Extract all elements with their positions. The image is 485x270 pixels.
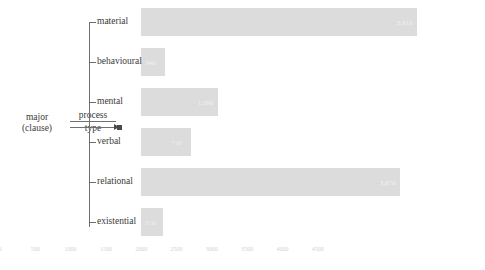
network-term-relational: relational: [97, 176, 133, 187]
bar-value-verbal: 710: [171, 139, 181, 146]
system-name-label: process type: [70, 110, 116, 133]
network-term-tick: [89, 22, 96, 23]
figure-canvas: major (clause) process type 3,9103401,09…: [0, 0, 485, 270]
x-axis: 050010001500200025003000350040004500: [0, 246, 344, 260]
bar-value-behavioural: 340: [145, 59, 155, 66]
x-tick-4000: 4000: [276, 246, 288, 252]
network-term-mental: mental: [97, 96, 123, 107]
network-term-tick: [89, 142, 96, 143]
network-term-behavioural: behavioural: [97, 56, 142, 67]
x-tick-3500: 3500: [241, 246, 253, 252]
x-tick-2000: 2000: [135, 246, 147, 252]
bar-row-existential[interactable]: 310: [141, 208, 485, 236]
bar-row-verbal[interactable]: 710: [141, 128, 485, 156]
bar-value-mental: 1,090: [198, 99, 214, 106]
x-tick-2500: 2500: [171, 246, 183, 252]
x-tick-3000: 3000: [206, 246, 218, 252]
x-tick-500: 500: [31, 246, 40, 252]
network-term-existential: existential: [97, 216, 136, 227]
x-tick-1500: 1500: [100, 246, 112, 252]
bar-value-existential: 310: [145, 219, 155, 226]
x-tick-0: 0: [0, 246, 2, 252]
network-root-line-2: (clause): [6, 123, 68, 134]
network-term-material: material: [97, 16, 128, 27]
system-brace-spine: [89, 22, 90, 227]
bar-material[interactable]: [141, 8, 417, 36]
network-root-line-1: major: [6, 112, 68, 123]
bar-chart-plot-area: 3,9103401,0907103,670310: [141, 0, 485, 270]
system-arrow-line: [70, 127, 116, 128]
bar-relational[interactable]: [141, 168, 400, 196]
bar-row-mental[interactable]: 1,090: [141, 88, 485, 116]
system-name-numerator: process: [70, 110, 116, 121]
bar-value-material: 3,910: [397, 19, 413, 26]
system-entry-node: [117, 125, 122, 130]
bar-value-relational: 3,670: [380, 179, 396, 186]
network-term-tick: [89, 222, 96, 223]
bar-verbal[interactable]: [141, 128, 191, 156]
bar-row-material[interactable]: 3,910: [141, 8, 485, 36]
network-term-tick: [89, 102, 96, 103]
network-term-tick: [89, 62, 96, 63]
network-term-tick: [89, 182, 96, 183]
network-term-verbal: verbal: [97, 136, 121, 147]
x-tick-4500: 4500: [312, 246, 324, 252]
x-tick-1000: 1000: [65, 246, 77, 252]
bar-row-behavioural[interactable]: 340: [141, 48, 485, 76]
network-root-label: major (clause): [6, 112, 68, 134]
bar-row-relational[interactable]: 3,670: [141, 168, 485, 196]
